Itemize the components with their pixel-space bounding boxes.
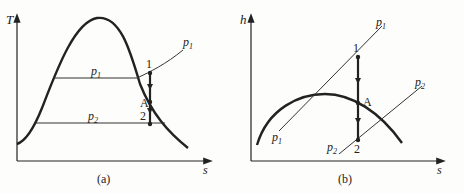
arrow-A-2: [355, 118, 361, 124]
p1-top-label: p1: [375, 15, 386, 31]
isobar-p1: [279, 26, 382, 131]
point-2-label: 2: [140, 109, 146, 123]
p1-bottom-label: p1: [271, 130, 282, 146]
caption-a: (a): [97, 172, 110, 186]
arrow-1-A: [147, 84, 153, 90]
state-point-1: [148, 71, 152, 75]
panel-a-ts-diagram: T s p1 p2 p1 1 A 2 (a): [6, 12, 208, 186]
thermo-diagrams: T s p1 p2 p1 1 A 2 (a) h s p1 p1: [0, 0, 464, 194]
p2-top-label: p2: [414, 75, 425, 91]
state-point-2: [148, 122, 152, 126]
isobar-p1-superheated: [137, 50, 183, 78]
s-axis-label: s: [203, 163, 208, 177]
state-point-1: [356, 55, 360, 59]
p1-label: p1: [90, 64, 101, 80]
point-1-label: 1: [146, 57, 152, 71]
panel-b-hs-diagram: h s p1 p1 p2 p2 1 A 2 (b): [240, 12, 442, 186]
p2-label: p2: [87, 109, 98, 125]
isobar-p2: [339, 86, 422, 154]
s-axis-label: s: [437, 163, 442, 177]
point-1-label: 1: [353, 41, 359, 55]
point-2-label: 2: [354, 142, 360, 156]
p1-curve-label: p1: [182, 35, 193, 51]
point-A-label: A: [140, 96, 149, 110]
p2-bottom-label: p2: [326, 140, 337, 156]
arrow-1-A: [355, 78, 361, 84]
state-point-A: [356, 101, 360, 105]
saturation-dome: [17, 18, 188, 148]
t-axis-label: T: [6, 12, 14, 27]
h-axis-label: h: [240, 12, 247, 27]
caption-b: (b): [338, 172, 352, 186]
point-A-label: A: [363, 95, 372, 109]
